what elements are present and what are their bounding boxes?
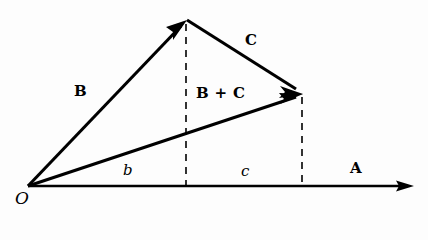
label-segment-c: c	[241, 164, 249, 179]
vector-b-plus-c-arrowhead	[279, 93, 303, 104]
label-segment-b: b	[123, 163, 133, 178]
label-vector-c: C	[245, 33, 257, 48]
vector-diagram-canvas	[0, 0, 428, 240]
figure-caption	[130, 218, 300, 230]
label-vector-b: B	[74, 84, 87, 99]
label-vector-a: A	[350, 161, 362, 176]
vector-c-shaft	[187, 20, 296, 89]
axis-vector-a	[28, 181, 414, 192]
vector-diagram-figure: B C B + C A b c O	[0, 0, 428, 240]
vector-b-plus-c	[28, 93, 303, 186]
vector-b-plus-c-shaft	[28, 97, 296, 186]
label-vector-b-plus-c: B + C	[196, 86, 245, 101]
label-origin-point: O	[15, 190, 29, 207]
